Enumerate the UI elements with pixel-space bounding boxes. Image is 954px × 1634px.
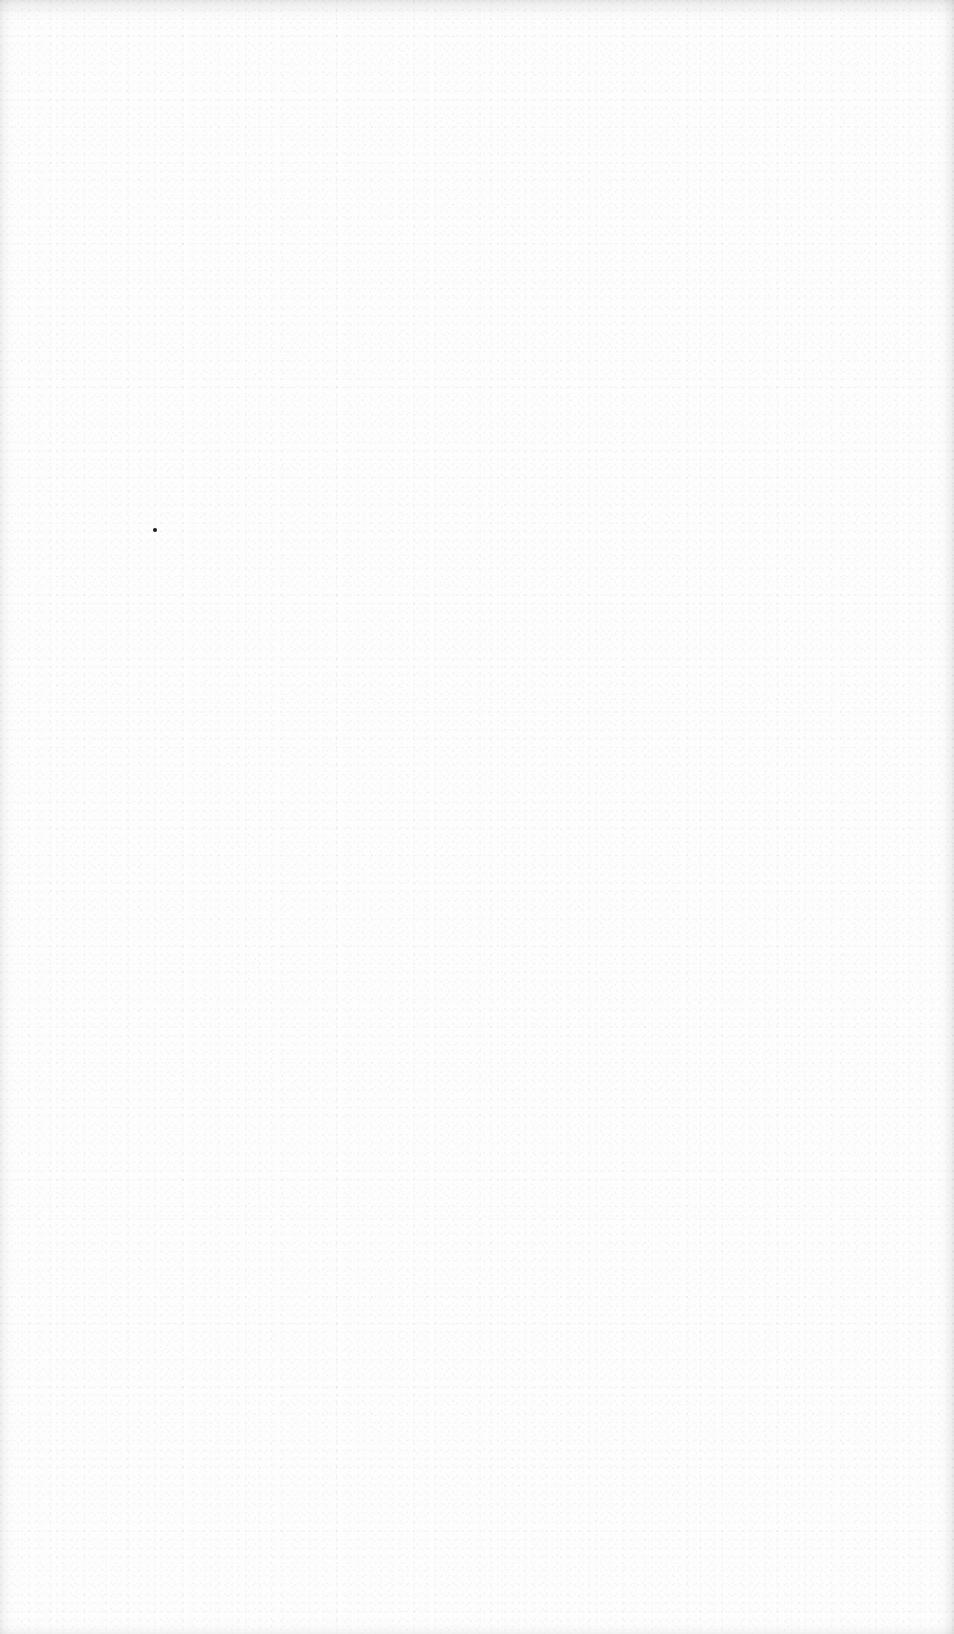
ink-dot-mark bbox=[153, 528, 157, 532]
blank-scanned-page bbox=[0, 0, 954, 1634]
